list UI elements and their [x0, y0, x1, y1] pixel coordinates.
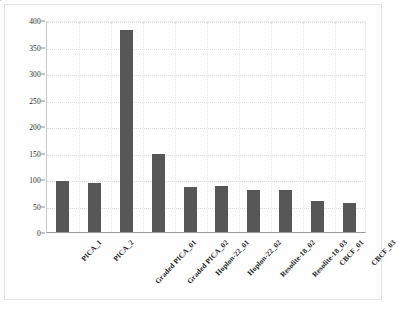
bar-slot	[301, 22, 333, 232]
y-tick-label: 250	[29, 96, 41, 105]
x-tick-label: PICA_2	[111, 238, 135, 263]
y-tick-mark	[41, 233, 45, 234]
bar-slot	[47, 22, 79, 232]
bar-slot	[142, 22, 174, 232]
bar-slot	[174, 22, 206, 232]
bar[interactable]	[247, 190, 260, 232]
y-tick-mark	[41, 127, 45, 128]
bar[interactable]	[88, 183, 101, 232]
bar-slot	[270, 22, 302, 232]
y-tick-mark	[41, 74, 45, 75]
y-tick-label: 150	[29, 149, 41, 158]
bar[interactable]	[279, 190, 292, 232]
y-tick-label: 200	[29, 123, 41, 132]
y-tick-mark	[41, 153, 45, 154]
bar[interactable]	[152, 154, 165, 232]
bar[interactable]	[184, 187, 197, 232]
y-tick-label: 50	[33, 202, 41, 211]
y-tick-label: 400	[29, 17, 41, 26]
bar-series	[47, 22, 365, 232]
plot-area	[46, 21, 366, 233]
bar[interactable]	[56, 181, 69, 232]
bar[interactable]	[311, 201, 324, 232]
y-tick-mark	[41, 206, 45, 207]
bar[interactable]	[343, 203, 356, 232]
y-tick-label: 300	[29, 70, 41, 79]
y-tick-mark	[41, 180, 45, 181]
x-axis-category-labels: PICA_1PICA_2Graded PICA_01Graded PICA_02…	[46, 235, 366, 305]
y-tick-mark	[41, 21, 45, 22]
y-tick-mark	[41, 100, 45, 101]
y-tick-mark	[41, 47, 45, 48]
y-tick-label: 350	[29, 43, 41, 52]
bar-slot	[79, 22, 111, 232]
bar-slot	[206, 22, 238, 232]
bar-slot	[238, 22, 270, 232]
bar[interactable]	[120, 30, 133, 232]
y-axis-ticks: 050100150200250300350400	[0, 0, 46, 234]
bar-slot	[111, 22, 143, 232]
bar-slot	[333, 22, 365, 232]
y-tick-label: 100	[29, 176, 41, 185]
x-tick-label: PICA_1	[79, 238, 103, 263]
bar[interactable]	[215, 186, 228, 232]
